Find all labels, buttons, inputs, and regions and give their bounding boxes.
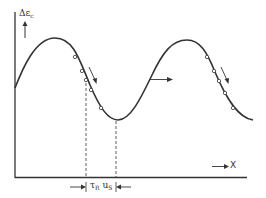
x-axis-label: X: [230, 161, 236, 170]
y-axis-up-arrow-icon: [23, 21, 28, 38]
down-slope-arrow-icon-1: [89, 67, 97, 84]
y-axis-label-sub: c: [30, 12, 33, 19]
dashed-guides: [86, 83, 116, 177]
interval-label: τR uS: [90, 181, 112, 191]
u-subscript: S: [108, 184, 112, 191]
y-axis-label: Δεc: [19, 9, 34, 19]
y-axis-label-main: Δε: [19, 8, 30, 18]
wave-curve: [15, 38, 253, 120]
x-axis-label-text: X: [230, 160, 236, 170]
wave-propagation-arrow-icon: [150, 77, 173, 82]
tau-subscript: R: [95, 184, 100, 191]
x-direction-arrow-icon: [212, 164, 229, 169]
diagram-canvas: [0, 0, 266, 198]
down-slope-arrow-icon-2: [221, 67, 229, 84]
